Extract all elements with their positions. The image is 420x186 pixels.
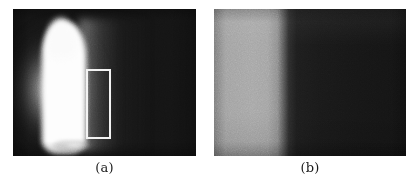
panel-b-caption: (b) <box>214 160 406 176</box>
panel-a-image <box>13 9 196 156</box>
panel-b <box>214 9 406 156</box>
panel-b-vignette <box>214 9 406 156</box>
panel-a <box>13 9 196 156</box>
figure-root: (a) (b) <box>0 0 420 186</box>
region-of-interest-box <box>86 69 111 139</box>
panel-a-caption: (a) <box>13 160 196 176</box>
panel-b-image <box>214 9 406 156</box>
